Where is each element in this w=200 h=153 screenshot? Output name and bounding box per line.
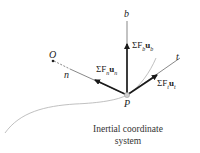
force-arrow-n [95, 80, 127, 95]
force-b-label: ΣFbub [132, 41, 153, 52]
force-n-label: ΣFnun [96, 65, 117, 76]
n-axis [54, 61, 70, 69]
origin-point [52, 60, 55, 63]
caption-line-1: Inertial coordinate [88, 125, 168, 135]
caption: Inertial coordinate system [88, 125, 168, 146]
particle-label: P [124, 99, 130, 109]
caption-line-2: system [88, 137, 168, 147]
n-axis-label: n [64, 70, 69, 80]
b-axis-label: b [124, 9, 129, 19]
origin-label: O [49, 50, 56, 60]
t-axis-label: t [176, 52, 179, 62]
force-t-label: ΣFtut [157, 79, 176, 90]
particle-point [124, 92, 129, 97]
trajectory-curve [5, 58, 156, 133]
force-arrow-t [127, 75, 157, 95]
